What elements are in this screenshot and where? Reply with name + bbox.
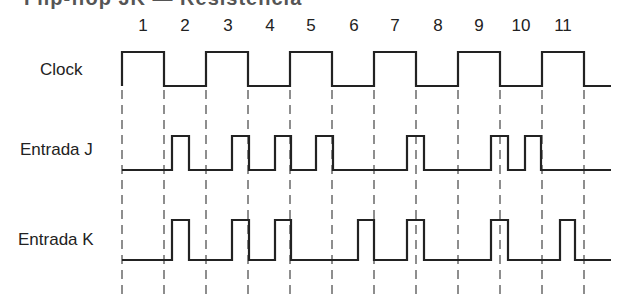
k-input-waveform xyxy=(122,220,611,260)
j-input-waveform xyxy=(122,136,611,170)
timing-diagram: Flip-flop JK — Resistencia 1234567891011… xyxy=(0,0,624,300)
clock-waveform xyxy=(122,52,611,86)
waveform-canvas xyxy=(0,0,624,300)
